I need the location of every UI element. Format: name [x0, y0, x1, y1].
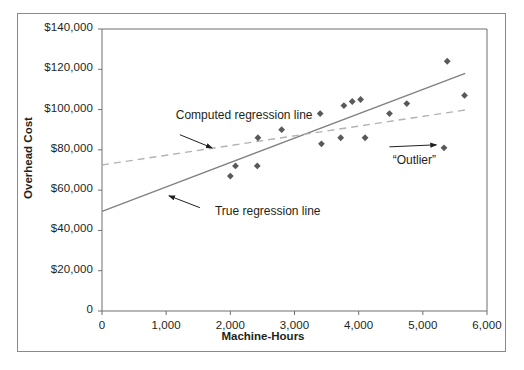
data-point-marker: [403, 100, 410, 107]
data-point-marker: [357, 96, 364, 103]
x-axis-title: Machine-Hours: [163, 330, 363, 342]
data-point-marker: [227, 173, 234, 180]
y-tick-label: $40,000: [0, 222, 93, 234]
y-tick-label: $20,000: [0, 263, 93, 275]
annotation-label-true-regression-line: True regression line: [215, 204, 321, 218]
data-point-marker: [349, 98, 356, 105]
data-point-marker: [362, 134, 369, 141]
data-point-marker: [278, 126, 285, 133]
y-tick-label: $80,000: [0, 142, 93, 154]
y-tick-label: $60,000: [0, 182, 93, 194]
y-tick-label: $140,000: [0, 21, 93, 33]
data-point-marker: [441, 144, 448, 151]
data-point-marker: [255, 134, 262, 141]
annotation-label-outlier: “Outlier”: [393, 153, 436, 167]
data-point-marker: [386, 110, 393, 117]
annotation-arrow-true-regression-line: [169, 196, 200, 208]
data-point-marker: [341, 102, 348, 109]
annotation-label-computed-regression-line: Computed regression line: [176, 108, 313, 122]
y-tick-label: $120,000: [0, 61, 93, 73]
data-point-marker: [337, 134, 344, 141]
data-point-marker: [232, 163, 239, 170]
data-point-marker: [461, 92, 468, 99]
data-point-marker: [254, 163, 261, 170]
figure-container: 0$20,000$40,000$60,000$80,000$100,000$12…: [0, 0, 524, 370]
y-tick-label: $100,000: [0, 102, 93, 114]
y-axis-title: Overhead Cost: [22, 103, 34, 213]
series-line-true-regression-line: [102, 73, 465, 211]
annotation-arrow-computed-regression-line: [180, 135, 212, 148]
data-point-marker: [444, 58, 451, 65]
data-point-marker: [317, 110, 324, 117]
annotation-arrow-outlier: [389, 145, 436, 147]
y-tick-label: 0: [0, 303, 93, 315]
data-point-marker: [318, 140, 325, 147]
x-tick-label: 6,000: [447, 319, 524, 331]
